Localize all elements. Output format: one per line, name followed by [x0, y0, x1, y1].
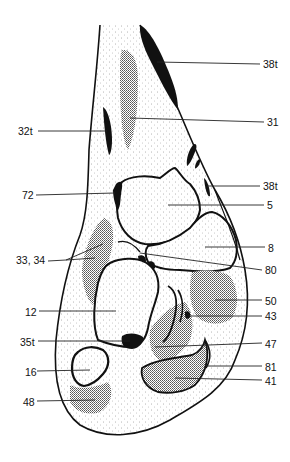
ankle-cross-section-diagram — [0, 0, 290, 462]
label-38t-middle: 38t — [263, 180, 278, 192]
label-50: 50 — [265, 295, 277, 307]
label-43: 43 — [265, 310, 277, 322]
label-32t: 32t — [18, 125, 33, 137]
tendon-43 — [185, 311, 190, 319]
label-81: 81 — [265, 361, 277, 373]
label-33-34: 33, 34 — [16, 254, 45, 266]
label-80: 80 — [265, 264, 277, 276]
label-12: 12 — [25, 306, 37, 318]
label-8: 8 — [268, 242, 274, 254]
label-48: 48 — [23, 396, 35, 408]
label-47: 47 — [265, 338, 277, 350]
label-35t: 35t — [20, 336, 35, 348]
label-72: 72 — [22, 189, 34, 201]
label-38t-upper: 38t — [263, 58, 278, 70]
label-5: 5 — [267, 199, 273, 211]
label-41: 41 — [265, 375, 277, 387]
label-16: 16 — [25, 366, 37, 378]
label-31: 31 — [267, 116, 279, 128]
